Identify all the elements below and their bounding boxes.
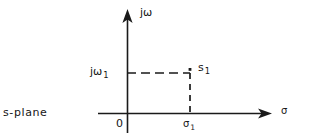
- jomega-1-tick-label: jω1: [90, 66, 109, 77]
- sigma-1-tick-label: σ1: [183, 119, 195, 129]
- origin-label: 0: [116, 118, 123, 129]
- point-dot-icon: [189, 68, 192, 71]
- jomega-1-main: jω: [90, 65, 102, 78]
- s-plane-figure: s-plane jω σ jω1 s1 0 σ1: [0, 0, 314, 140]
- figure-caption-s-plane: s-plane: [3, 107, 47, 118]
- s-plane-plot-area: [0, 0, 314, 140]
- point-label-s1: s1: [198, 62, 210, 73]
- jomega-1-subscript: 1: [102, 70, 108, 80]
- sigma-1-subscript: 1: [189, 123, 195, 132]
- jomega-axis-label: jω: [140, 7, 152, 18]
- point-label-subscript: 1: [204, 66, 210, 76]
- sigma-axis-label: σ: [281, 106, 287, 116]
- point-label-main: s: [198, 61, 204, 74]
